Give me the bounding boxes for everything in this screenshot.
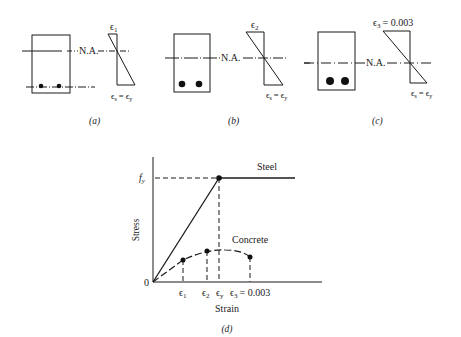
- guide-lines: [155, 178, 250, 282]
- panel-c-strain-diagram: [383, 31, 427, 83]
- panel-a-top-strain: ϵ1: [110, 21, 118, 34]
- panel-a-strain-diagram: [108, 34, 135, 85]
- origin-label: 0: [144, 277, 149, 288]
- x-tick-e3: ϵ3= 0.003: [230, 287, 270, 300]
- panel-a-bottom-strain: ϵs= ϵy: [111, 91, 132, 102]
- panel-c-top-strain: ϵ3= 0.003: [373, 17, 413, 30]
- panel-b-caption: (b): [228, 116, 239, 127]
- x-tick-ey: ϵy: [216, 287, 224, 300]
- panel-c-bottom-strain: ϵs= ϵy: [411, 88, 432, 99]
- concrete-curve: [153, 250, 250, 282]
- concrete-label: Concrete: [232, 234, 269, 245]
- points: [39, 77, 349, 263]
- panel-b-top-strain: ϵ2: [251, 19, 259, 32]
- panel-a-caption: (a): [89, 116, 100, 127]
- panel-a-na-label: N.A.: [79, 45, 98, 56]
- x-axis-label: Strain: [215, 303, 239, 314]
- panel-c-caption: (c): [372, 116, 383, 127]
- panel-b-na-label: N.A.: [221, 52, 240, 63]
- panel-b-bottom-strain: ϵs= ϵy: [266, 90, 287, 101]
- figure: N.A. ϵ1 ϵs= ϵy (a) N.A. ϵ2 ϵs= ϵy (b) N.…: [0, 0, 461, 337]
- panel-a-section: [22, 35, 131, 93]
- panel-d-caption: (d): [221, 324, 232, 335]
- fy-tick-label: fy: [139, 172, 146, 185]
- y-axis-label: Stress: [131, 218, 141, 241]
- x-tick-e2: ϵ2: [202, 287, 210, 300]
- steel-label: Steel: [257, 161, 277, 172]
- x-tick-e1: ϵ1: [179, 287, 187, 300]
- panel-c-na-label: N.A.: [366, 57, 385, 68]
